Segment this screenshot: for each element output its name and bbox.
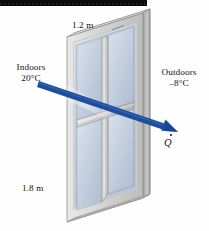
heat-rate-symbol-label: Q (164, 137, 186, 148)
window-pane-bottom-right (108, 109, 134, 193)
bottom-dimension-label: 1.8 m (22, 183, 74, 194)
indoors-temperature-label: 20°C (4, 73, 58, 84)
top-dimension-label: 1.2 m (72, 20, 122, 31)
window-frame-right-edge (143, 9, 150, 198)
outdoors-temperature-label: –8°C (150, 78, 208, 89)
window-pane-bottom-left (77, 119, 102, 210)
window-heat-transfer-figure: 1.2 m 1.8 m Indoors 20°C Outdoors –8°C Q (0, 0, 209, 231)
outdoors-name-label: Outdoors (150, 67, 208, 78)
outdoors-label-group: Outdoors –8°C (150, 67, 208, 89)
window-illustration (0, 0, 209, 231)
indoors-name-label: Indoors (4, 62, 58, 73)
scan-artifact-bar (0, 0, 147, 6)
window-pane-top-right (108, 27, 134, 110)
indoors-label-group: Indoors 20°C (4, 62, 58, 84)
q-dot-accent-icon (170, 134, 172, 136)
